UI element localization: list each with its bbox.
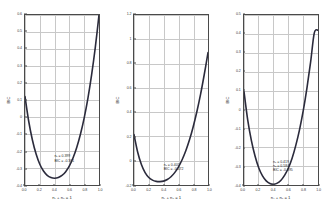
y-tick-mark — [133, 38, 136, 39]
x-tick-mark — [273, 184, 274, 187]
x-tick-label: 0.0 — [22, 188, 27, 192]
x-tick-mark — [69, 184, 70, 187]
y-tick-label: -0.3 — [235, 165, 241, 169]
gridline-vertical — [208, 15, 209, 185]
x-tick-label: 0.4 — [161, 188, 166, 192]
curve-2 — [134, 15, 208, 185]
x-axis-label-1: n₁ + n₂ = 1 — [52, 195, 72, 200]
gridline-vertical — [318, 15, 319, 185]
y-tick-mark — [243, 128, 246, 129]
y-tick-label: 0.2 — [236, 69, 241, 73]
y-tick-mark — [24, 134, 27, 135]
y-tick-mark — [243, 147, 246, 148]
y-tick-label: -0.2 — [16, 150, 22, 154]
gridline-vertical — [99, 15, 100, 185]
y-tick-mark — [24, 31, 27, 32]
x-tick-mark — [303, 184, 304, 187]
y-tick-mark — [243, 109, 246, 110]
y-tick-label: 0 — [239, 108, 241, 112]
annotation-1: n₁ = 0.399BIC = -0.361 — [54, 154, 74, 163]
y-tick-label: 0 — [20, 115, 22, 119]
x-tick-mark — [24, 184, 25, 187]
x-tick-label: 0.8 — [192, 188, 197, 192]
y-tick-mark — [133, 161, 136, 162]
x-tick-label: 0.6 — [67, 188, 72, 192]
x-tick-mark — [133, 184, 134, 187]
annotation-line: BIC = -0.395 — [273, 168, 293, 172]
y-tick-mark — [243, 14, 246, 15]
y-tick-label: 0.6 — [17, 12, 22, 16]
y-tick-label: -0.2 — [235, 146, 241, 150]
y-axis-label-3: BIC — [225, 97, 230, 104]
gridline-horizontal — [244, 185, 318, 186]
x-tick-label: 0.6 — [286, 188, 291, 192]
x-tick-label: 0.4 — [52, 188, 57, 192]
y-tick-label: 1.2 — [127, 12, 132, 16]
x-tick-mark — [39, 184, 40, 187]
annotation-line: BIC = -0.172 — [164, 167, 184, 171]
annotation-line: BIC = -0.361 — [54, 159, 74, 163]
y-tick-mark — [24, 65, 27, 66]
panel-1: -0.4-0.3-0.2-0.100.10.20.30.40.50.60.00.… — [0, 0, 109, 218]
y-tick-label: -0.3 — [16, 167, 22, 171]
y-tick-label: 0.4 — [236, 31, 241, 35]
x-tick-label: 0.8 — [82, 188, 87, 192]
plot-area-3: -0.4-0.3-0.2-0.100.10.20.30.40.50.00.20.… — [243, 14, 319, 186]
x-tick-mark — [209, 184, 210, 187]
y-tick-label: 0.1 — [236, 88, 241, 92]
y-tick-label: 0 — [129, 159, 131, 163]
x-tick-label: 0.8 — [301, 188, 306, 192]
y-tick-label: 1 — [129, 37, 131, 41]
y-tick-label: 0.2 — [127, 135, 132, 139]
y-tick-mark — [24, 82, 27, 83]
y-tick-mark — [243, 71, 246, 72]
y-tick-label: -0.1 — [235, 127, 241, 131]
y-tick-mark — [24, 117, 27, 118]
y-tick-mark — [133, 87, 136, 88]
gridline-horizontal — [134, 185, 208, 186]
plot-area-1: -0.4-0.3-0.2-0.100.10.20.30.40.50.60.00.… — [24, 14, 100, 186]
panel-2: -0.200.20.40.60.811.20.00.20.40.60.81.0 … — [109, 0, 218, 218]
x-tick-mark — [54, 184, 55, 187]
y-tick-label: -0.1 — [16, 132, 22, 136]
annotation-3: n₁ = 0.419n₂ = 0.584BIC = -0.395 — [273, 160, 293, 173]
x-tick-mark — [257, 184, 258, 187]
x-axis-label-2: n₁ + n₂ = 1 — [162, 195, 182, 200]
x-tick-mark — [100, 184, 101, 187]
y-tick-mark — [24, 168, 27, 169]
y-tick-label: 0.8 — [127, 61, 132, 65]
y-tick-mark — [133, 14, 136, 15]
y-tick-label: 0.5 — [236, 12, 241, 16]
y-tick-label: 0.4 — [17, 46, 22, 50]
y-tick-mark — [243, 90, 246, 91]
annotation-2: n₁ = 0.405BIC = -0.172 — [164, 163, 184, 172]
x-tick-label: 0.0 — [131, 188, 136, 192]
y-axis-label-2: BIC — [115, 97, 120, 104]
figure: -0.4-0.3-0.2-0.100.10.20.30.40.50.60.00.… — [0, 0, 328, 218]
y-tick-mark — [243, 33, 246, 34]
y-tick-label: 0.4 — [127, 110, 132, 114]
panel-3: -0.4-0.3-0.2-0.100.10.20.30.40.50.00.20.… — [219, 0, 328, 218]
plot-area-2: -0.200.20.40.60.811.20.00.20.40.60.81.0 … — [133, 14, 209, 186]
x-tick-label: 0.2 — [37, 188, 42, 192]
y-tick-label: 0.1 — [17, 98, 22, 102]
x-tick-label: 0.0 — [240, 188, 245, 192]
y-tick-label: 0.6 — [127, 86, 132, 90]
x-tick-label: 1.0 — [207, 188, 212, 192]
y-tick-mark — [243, 52, 246, 53]
x-tick-label: 0.6 — [177, 188, 182, 192]
x-tick-mark — [318, 184, 319, 187]
y-tick-label: 0.2 — [17, 81, 22, 85]
x-tick-label: 0.4 — [271, 188, 276, 192]
y-tick-mark — [24, 151, 27, 152]
y-tick-mark — [24, 48, 27, 49]
x-tick-label: 1.0 — [316, 188, 321, 192]
x-tick-mark — [163, 184, 164, 187]
y-tick-label: 0.3 — [236, 50, 241, 54]
x-tick-mark — [178, 184, 179, 187]
x-tick-label: 0.2 — [146, 188, 151, 192]
y-tick-mark — [133, 112, 136, 113]
y-tick-label: 0.3 — [17, 64, 22, 68]
y-tick-label: 0.5 — [17, 29, 22, 33]
plot-frame-2 — [133, 14, 209, 186]
